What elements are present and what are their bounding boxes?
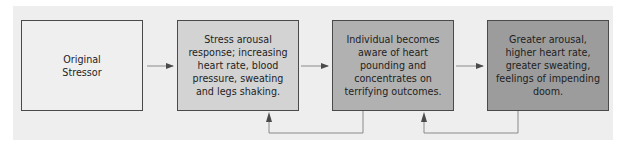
connectors bbox=[0, 0, 628, 144]
feedback-loop-arrow-icon bbox=[266, 111, 363, 133]
feedback-loop-arrow-icon bbox=[421, 111, 518, 133]
